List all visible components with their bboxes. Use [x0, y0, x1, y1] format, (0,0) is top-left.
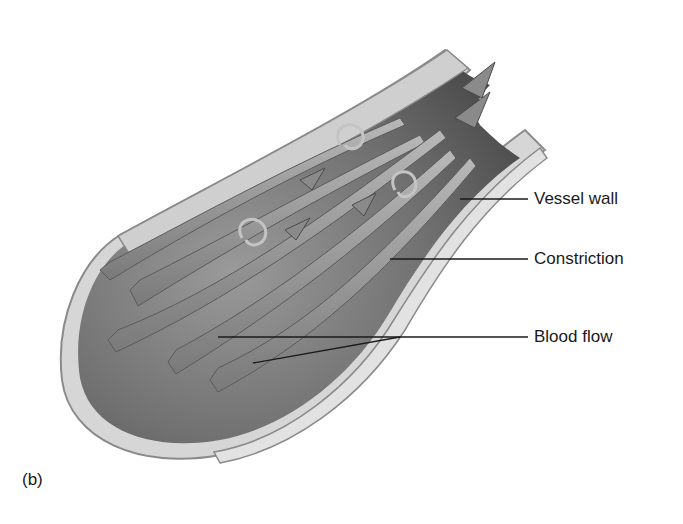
- constriction-label: Constriction: [534, 249, 624, 269]
- blood-flow-label: Blood flow: [534, 327, 612, 347]
- vessel-wall-label: Vessel wall: [534, 189, 618, 209]
- panel-label: (b): [22, 470, 43, 490]
- vessel-diagram: Vessel wall Constriction Blood flow (b): [0, 0, 683, 524]
